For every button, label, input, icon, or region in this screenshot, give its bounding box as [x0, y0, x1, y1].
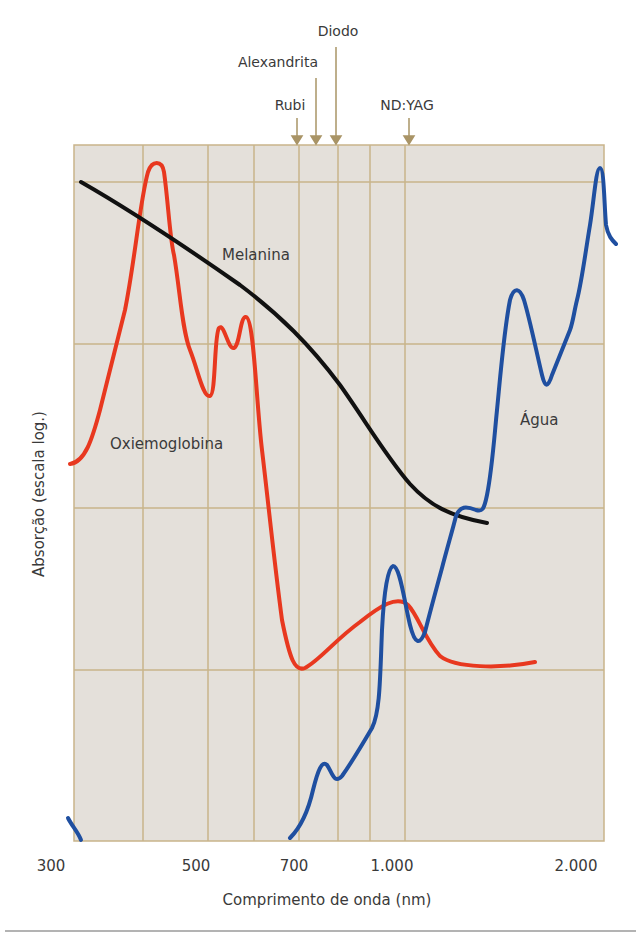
- marker-diodo: Diodo: [318, 23, 359, 39]
- marker-rubi: Rubi: [275, 97, 306, 113]
- absorption-chart: Melanina Oxiemoglobina Água Rubi Alexand…: [0, 0, 643, 939]
- label-oxiemoglobina: Oxiemoglobina: [110, 435, 223, 453]
- y-axis-label: Absorção (escala log.): [30, 411, 48, 577]
- label-agua: Água: [520, 410, 558, 429]
- x-tick-300: 300: [37, 857, 66, 875]
- label-melanina: Melanina: [222, 246, 290, 264]
- x-tick-2000: 2.000: [555, 857, 598, 875]
- plot-area: [74, 145, 604, 841]
- marker-alexandrita: Alexandrita: [238, 54, 318, 70]
- marker-ndyag: ND:YAG: [380, 97, 434, 113]
- x-tick-500: 500: [182, 857, 211, 875]
- x-tick-700: 700: [280, 857, 309, 875]
- x-tick-1000: 1.000: [371, 857, 414, 875]
- x-axis-label: Comprimento de onda (nm): [223, 891, 432, 909]
